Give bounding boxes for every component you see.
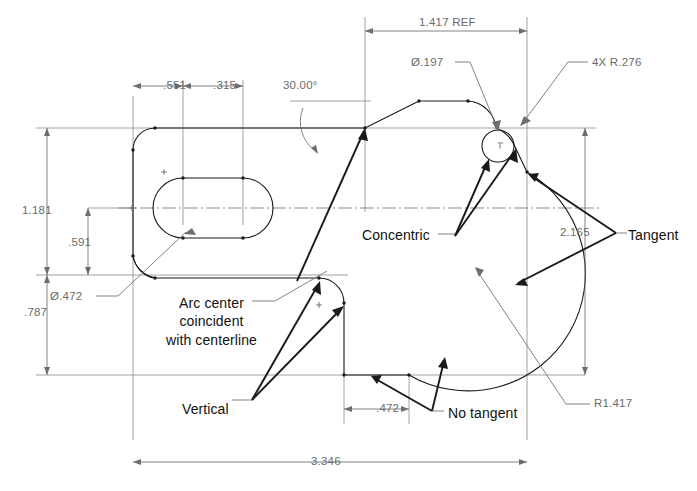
arrow-787-bottom <box>44 367 50 375</box>
center-mark-notch-arc <box>316 302 322 308</box>
arrow-591-bottom <box>85 267 91 275</box>
dim-label-787: .787 <box>24 307 47 319</box>
dim-label-1181: 1.181 <box>22 205 52 217</box>
vertex-dot <box>525 170 528 173</box>
vertex-dot <box>153 126 156 129</box>
dim-label-1417-ref: 1.417 REF <box>419 17 476 29</box>
arrow-notangent-b <box>438 357 448 369</box>
dim-label-315: .315 <box>213 80 236 92</box>
vertex-dot <box>317 276 320 279</box>
dimline-angle-30 <box>300 108 317 152</box>
dim-label-472: .472 <box>376 403 399 415</box>
vertex-dot <box>181 236 184 239</box>
arrow-2165-bottom <box>582 367 588 375</box>
arrow-472-left <box>344 406 352 412</box>
dim-label-angle-30: 30.00° <box>283 80 318 92</box>
callout-leaders <box>96 62 590 404</box>
dim-label-551: .551 <box>163 80 186 92</box>
callout-label-4x-r276: 4X R.276 <box>592 57 642 69</box>
arrow-1181-top <box>44 128 50 136</box>
note-tangent: Tangent <box>628 226 679 244</box>
center-marks <box>129 143 503 308</box>
callout-label-dia-472: Ø.472 <box>50 291 82 303</box>
leader-tangent-b <box>518 233 616 283</box>
annotation-leaders <box>232 128 627 411</box>
arrow-472-right <box>401 406 409 412</box>
note-vertical: Vertical <box>182 400 229 418</box>
dimension-lines <box>44 28 588 465</box>
vertex-dot <box>241 176 244 179</box>
dim-label-2165: 2.165 <box>560 227 590 239</box>
leader-concentric-a <box>455 163 487 236</box>
leader-r1417 <box>476 269 590 404</box>
arrow-concentric-a <box>481 159 490 172</box>
leader-bold-angle-upper <box>297 131 364 281</box>
arrow-1417-left <box>365 28 373 34</box>
leader-tangent-a <box>531 176 616 233</box>
engineering-drawing: .551 .315 30.00° 1.417 REF 1.181 .591 .7… <box>0 0 697 491</box>
center-mark-left-corner <box>161 169 167 175</box>
vertex-dot <box>241 236 244 239</box>
internal-features <box>153 130 514 238</box>
vertex-dot <box>466 99 469 102</box>
vertex-dot <box>407 373 410 376</box>
note-arc-center-coincident: Arc center coincident with centerline <box>166 294 257 349</box>
arrow-angle-30 <box>311 145 318 154</box>
leader-dia472 <box>96 232 186 296</box>
arrow-591-top <box>85 208 91 216</box>
arrow-2165-top <box>582 128 588 136</box>
vertex-dot <box>131 254 134 257</box>
dim-label-3346: 3.346 <box>311 456 341 468</box>
arrow-bold-angle <box>358 128 368 141</box>
drawing-canvas <box>0 0 697 491</box>
vertex-dot <box>417 99 420 102</box>
arrow-dia472 <box>184 228 196 235</box>
vertex-dot <box>342 373 345 376</box>
vertex-dot <box>131 148 134 151</box>
note-no-tangent: No tangent <box>448 404 518 422</box>
arrow-787-top <box>44 275 50 283</box>
arrow-1417-right <box>519 28 527 34</box>
leader-dia197 <box>455 62 498 130</box>
arrow-3346-right <box>519 459 527 465</box>
dim-label-591: .591 <box>68 237 91 249</box>
callout-label-dia-197: Ø.197 <box>411 57 443 69</box>
vertex-dot <box>342 301 345 304</box>
arrow-1181-bottom <box>44 267 50 275</box>
arrow-551-left <box>133 83 141 89</box>
leader-r276 <box>522 62 588 124</box>
arrow-315-right <box>235 83 243 89</box>
vertex-dot <box>181 176 184 179</box>
arrow-r276 <box>520 116 531 126</box>
vertex-dot <box>153 276 156 279</box>
center-mark-circle <box>498 143 503 149</box>
callout-label-r1417: R1.417 <box>594 398 632 410</box>
arrow-r1417 <box>475 267 484 277</box>
note-concentric: Concentric <box>362 226 430 244</box>
arrow-3346-left <box>133 459 141 465</box>
